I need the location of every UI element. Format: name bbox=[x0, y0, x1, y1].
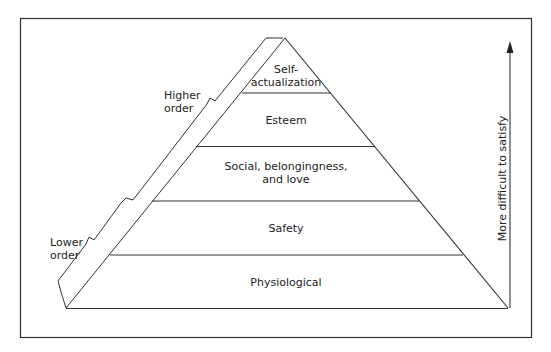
level-label-safety: Safety bbox=[236, 222, 336, 235]
arrow-head-icon bbox=[507, 41, 514, 53]
level-label-social: Social, belongingness, and love bbox=[206, 160, 366, 186]
bracket-label-higher-order: Higher order bbox=[164, 89, 224, 115]
axis-label-difficulty: More difficult to satisfy bbox=[496, 109, 509, 249]
level-label-physiological: Physiological bbox=[226, 276, 346, 289]
level-label-esteem: Esteem bbox=[236, 114, 336, 127]
bracket-label-lower-order: Lower order bbox=[50, 236, 110, 262]
level-label-self-actualization: Self- actualization bbox=[236, 63, 336, 89]
